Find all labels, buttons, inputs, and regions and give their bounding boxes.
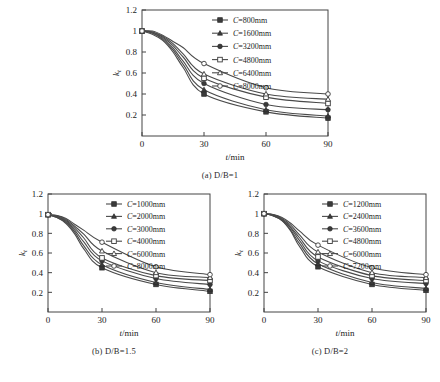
data-point-filled-square xyxy=(112,202,117,207)
data-point-open-square xyxy=(202,76,207,81)
legend-label: C=4800mm xyxy=(343,237,382,246)
x-tick-label: 30 xyxy=(314,315,324,325)
x-tick-label: 60 xyxy=(368,315,378,325)
data-point-open-circle xyxy=(316,243,321,248)
y-axis-title: kt xyxy=(17,250,28,256)
line-chart-c: 03060900.20.40.60.811.2t/minktC=1200mmC=… xyxy=(222,186,438,346)
data-point-open-square xyxy=(328,239,333,244)
legend-label: C=6000mm xyxy=(343,250,382,259)
data-point-open-circle xyxy=(46,212,51,217)
legend-label: C=2000mm xyxy=(127,212,166,221)
y-tick-label: 1.2 xyxy=(248,189,259,199)
y-axis-title: kt xyxy=(111,70,122,76)
y-tick-label: 0.6 xyxy=(126,68,138,78)
legend-label: C=4800mm xyxy=(233,56,272,65)
chart-panel-b: 03060900.20.40.60.811.2t/minktC=1000mmC=… xyxy=(6,186,222,362)
x-tick-label: 90 xyxy=(422,315,432,325)
y-tick-label: 0.4 xyxy=(248,268,260,278)
x-axis-title: t/min xyxy=(335,328,355,338)
legend-label: C=2400mm xyxy=(343,212,382,221)
data-point-open-triangle xyxy=(315,249,320,254)
y-axis-title: kt xyxy=(233,250,244,256)
data-point-filled-circle xyxy=(264,102,269,107)
x-tick-label: 0 xyxy=(262,315,267,325)
data-point-filled-circle xyxy=(328,227,333,232)
y-tick-label: 0.2 xyxy=(32,288,43,298)
data-point-filled-circle xyxy=(218,44,223,49)
x-axis-title: t/min xyxy=(225,152,245,162)
y-tick-label: 0.4 xyxy=(126,89,138,99)
line-chart-a: 03060900.20.40.60.811.2t/minktC=800mmC=1… xyxy=(100,2,340,170)
data-point-open-triangle xyxy=(201,71,206,76)
legend-label: C=8000mm xyxy=(233,82,272,91)
y-tick-label: 0.8 xyxy=(248,229,260,239)
data-point-open-circle xyxy=(202,61,207,66)
x-tick-label: 60 xyxy=(262,139,272,149)
data-point-filled-circle xyxy=(112,227,117,232)
data-point-open-triangle xyxy=(263,91,268,96)
data-point-open-circle xyxy=(208,272,213,277)
data-point-open-square xyxy=(218,57,223,62)
x-tick-label: 90 xyxy=(206,315,216,325)
x-tick-label: 30 xyxy=(98,315,108,325)
y-tick-label: 0.2 xyxy=(126,110,137,120)
data-point-open-circle xyxy=(140,29,145,34)
x-tick-label: 60 xyxy=(152,315,162,325)
legend-label: C=8000mm xyxy=(127,262,166,271)
data-point-open-triangle xyxy=(217,70,222,75)
data-point-filled-square xyxy=(202,92,207,97)
x-tick-label: 30 xyxy=(200,139,210,149)
data-point-filled-circle xyxy=(202,81,207,86)
data-point-open-square xyxy=(316,255,321,260)
y-tick-label: 0.8 xyxy=(126,47,138,57)
plot-area-c: 03060900.20.40.60.811.2t/minktC=1200mmC=… xyxy=(222,186,438,362)
data-point-open-triangle xyxy=(325,97,330,102)
data-point-filled-square xyxy=(218,18,223,23)
data-point-open-triangle xyxy=(99,248,104,253)
figure-container: 03060900.20.40.60.811.2t/minktC=800mmC=1… xyxy=(0,0,440,382)
x-axis-title: t/min xyxy=(119,328,139,338)
x-tick-label: 0 xyxy=(140,139,145,149)
y-tick-label: 0.8 xyxy=(32,229,44,239)
panel-caption-a: (a) D/B=1 xyxy=(100,170,340,180)
y-tick-label: 1 xyxy=(39,209,44,219)
panel-caption-c: (c) D/B=2 xyxy=(222,346,438,356)
plot-area-a: 03060900.20.40.60.811.2t/minktC=800mmC=1… xyxy=(100,2,340,188)
chart-panel-c: 03060900.20.40.60.811.2t/minktC=1200mmC=… xyxy=(222,186,438,362)
y-tick-label: 0.6 xyxy=(248,248,260,258)
data-point-open-square xyxy=(326,101,331,106)
data-point-open-square xyxy=(112,239,117,244)
legend-label: C=3000mm xyxy=(127,225,166,234)
legend-label: C=1000mm xyxy=(127,200,166,209)
y-tick-label: 0.4 xyxy=(32,268,44,278)
legend-label: C=7200mm xyxy=(343,262,382,271)
data-point-open-circle xyxy=(326,92,331,97)
legend-label: C=4000mm xyxy=(127,237,166,246)
legend-label: C=1600mm xyxy=(233,29,272,38)
x-tick-label: 0 xyxy=(46,315,51,325)
legend-label: C=6000mm xyxy=(127,250,166,259)
data-point-open-circle xyxy=(424,272,429,277)
y-tick-label: 1.2 xyxy=(126,5,137,15)
plot-area-b: 03060900.20.40.60.811.2t/minktC=1000mmC=… xyxy=(6,186,222,362)
chart-panel-a: 03060900.20.40.60.811.2t/minktC=800mmC=1… xyxy=(100,2,340,188)
legend-label: C=3200mm xyxy=(233,42,272,51)
legend-label: C=3600mm xyxy=(343,225,382,234)
legend-label: C=1200mm xyxy=(343,200,382,209)
data-point-open-triangle xyxy=(111,251,116,256)
y-tick-label: 0.6 xyxy=(32,248,44,258)
data-point-filled-triangle xyxy=(201,87,206,92)
data-point-filled-square xyxy=(328,202,333,207)
y-tick-label: 0.2 xyxy=(248,288,259,298)
y-tick-label: 1.2 xyxy=(32,189,43,199)
y-tick-label: 1 xyxy=(133,26,138,36)
x-tick-label: 90 xyxy=(324,139,334,149)
line-chart-b: 03060900.20.40.60.811.2t/minktC=1000mmC=… xyxy=(6,186,222,346)
data-point-open-circle xyxy=(328,264,333,269)
legend-label: C=6400mm xyxy=(233,69,272,78)
data-point-open-circle xyxy=(100,240,105,245)
data-point-open-circle xyxy=(218,84,223,89)
legend-label: C=800mm xyxy=(233,16,268,25)
data-point-open-square xyxy=(100,256,105,261)
data-point-open-circle xyxy=(112,264,117,269)
